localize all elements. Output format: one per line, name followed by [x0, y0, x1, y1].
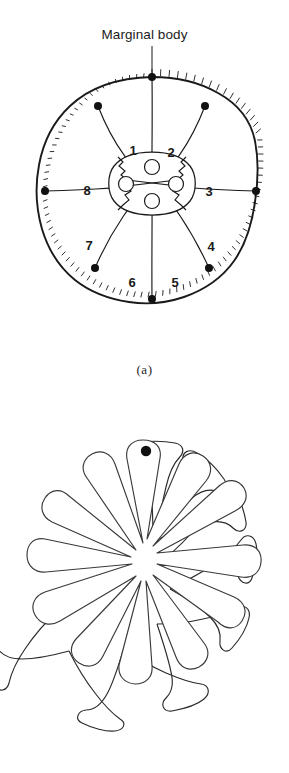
- sector-label-7: 7: [85, 238, 92, 253]
- nucleus-left: [119, 177, 134, 192]
- panel-b-contracted-view: (b): [0, 392, 289, 773]
- nucleus-bottom: [145, 194, 160, 209]
- sector-label-2: 2: [167, 145, 174, 160]
- sector-label-5: 5: [171, 275, 178, 290]
- marginal-body-upper-left: [94, 102, 102, 110]
- panel-a-drawing: 1 2 3 4 5 6 7 8: [0, 0, 289, 392]
- sector-label-6: 6: [128, 275, 135, 290]
- sector-label-1: 1: [129, 143, 136, 158]
- marginal-body-lower-left: [91, 264, 99, 272]
- nucleus-top: [145, 160, 160, 175]
- marginal-body-bottom: [148, 295, 156, 303]
- sector-label-3: 3: [205, 184, 212, 199]
- marginal-body-left: [41, 187, 49, 195]
- marginal-body-top: [148, 73, 156, 81]
- panel-a-expanded-view: Marginal body: [0, 0, 289, 392]
- sector-label-8: 8: [83, 183, 90, 198]
- marginal-body-lower-right: [205, 264, 213, 272]
- panel-b-drawing: [0, 392, 289, 773]
- marginal-body-upper-right: [201, 102, 209, 110]
- nucleus-right: [169, 177, 184, 192]
- marginal-body-top-lobe: [141, 446, 151, 456]
- marginal-body-right: [252, 187, 260, 195]
- sector-label-4: 4: [207, 239, 215, 254]
- caption-a: (a): [0, 362, 289, 378]
- figure-page: Marginal body: [0, 0, 289, 773]
